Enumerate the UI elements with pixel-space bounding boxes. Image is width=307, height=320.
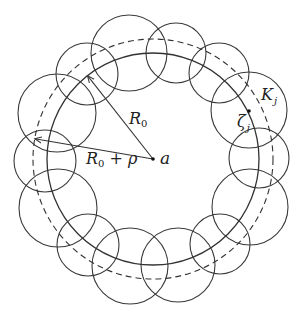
small-disk — [14, 130, 76, 192]
r0rho-label-main: R — [86, 149, 98, 168]
r0-label-sub: 0 — [141, 118, 147, 129]
r0rho-label-op: + — [104, 149, 128, 168]
zeta-j-label: ζj — [237, 114, 250, 130]
diagram-svg — [0, 0, 307, 320]
r0-plus-rho-label: R0 + ρ — [86, 151, 137, 167]
k-label-sub: j — [274, 95, 277, 106]
r0rho-label-sub: 0 — [98, 158, 104, 169]
k-label-main: K — [261, 85, 273, 104]
r0-label-main: R — [129, 109, 141, 128]
r0rho-label-rho: ρ — [128, 149, 137, 168]
k-j-label: Kj — [261, 87, 277, 103]
small-disk — [212, 169, 288, 245]
point-zeta-j — [247, 109, 251, 113]
small-disk — [57, 214, 119, 276]
center-point-a — [151, 157, 155, 161]
r0-label: R0 — [129, 111, 147, 127]
small-disk — [92, 228, 168, 304]
zeta-label-sub: j — [247, 122, 250, 133]
zeta-label-main: ζ — [237, 112, 246, 131]
center-label-text: a — [160, 148, 170, 168]
disk-ring-diagram: a R0 R0 + ρ Kj ζj — [0, 0, 307, 320]
small-disk — [56, 43, 118, 105]
center-label-a: a — [160, 150, 170, 167]
